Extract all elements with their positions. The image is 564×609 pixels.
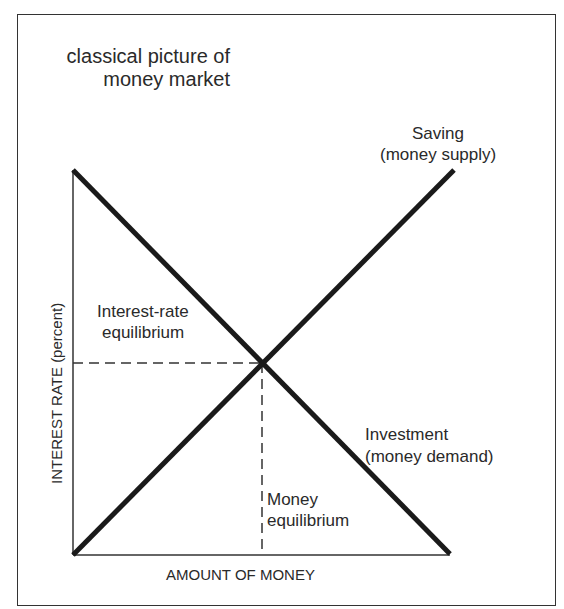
chart-title-line2: money market [103,68,230,91]
chart-title-line1: classical picture of [67,45,230,68]
interest-rate-equilibrium-label-line2: equilibrium [102,323,184,343]
money-equilibrium-label-line2: equilibrium [267,511,349,531]
supply-label-line1: Saving [412,124,464,144]
interest-rate-equilibrium-label-line1: Interest-rate [97,302,189,322]
demand-label-line1: Investment [365,425,448,445]
supply-label-line2: (money supply) [380,145,496,165]
money-equilibrium-label-line1: Money [267,490,318,510]
demand-label-line2: (money demand) [365,447,494,467]
y-axis-label: INTEREST RATE (percent) [48,303,65,484]
x-axis-label: AMOUNT OF MONEY [166,566,315,583]
